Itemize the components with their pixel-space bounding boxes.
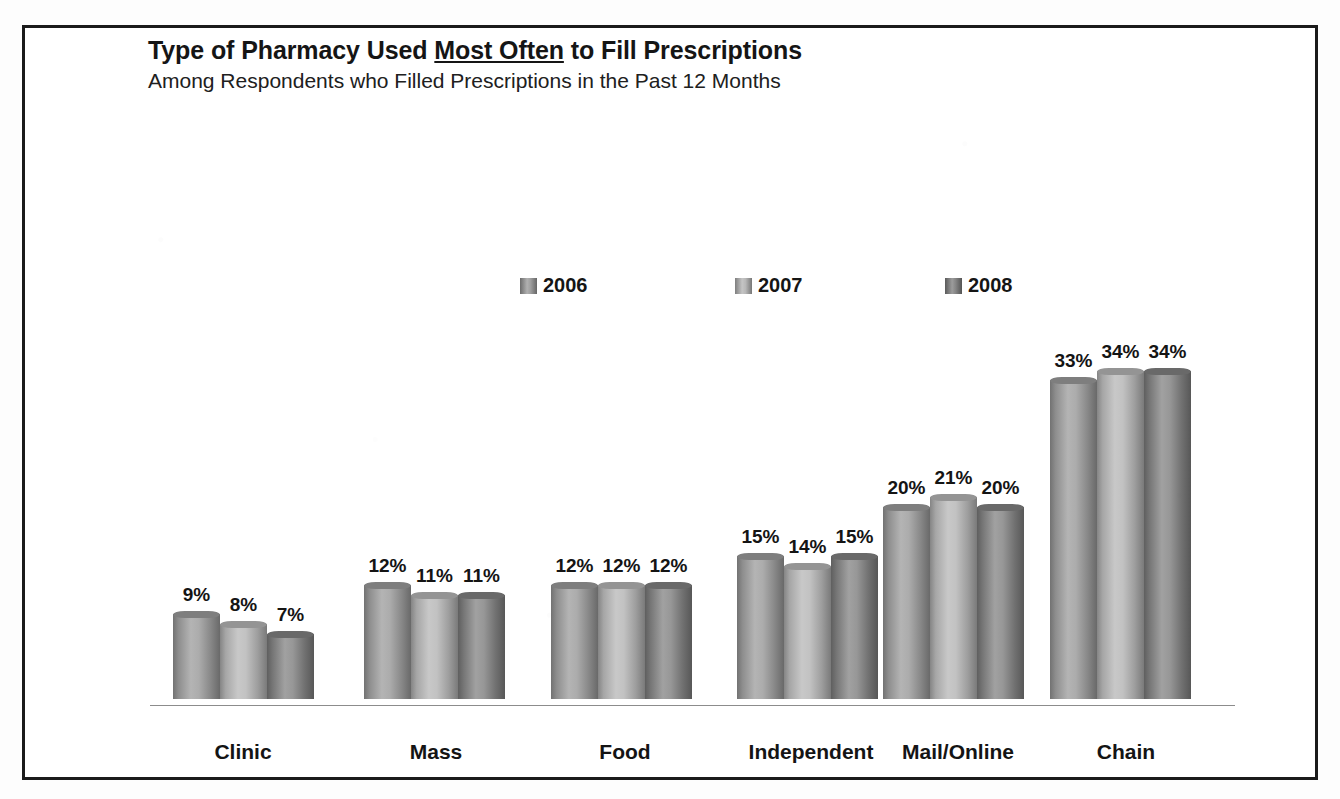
bar-mass-2007: 11%	[411, 592, 458, 699]
bar-value-label: 34%	[1148, 341, 1186, 363]
bar-body	[1097, 371, 1144, 700]
bar-clinic-2006: 9%	[173, 611, 220, 699]
bar-body	[1144, 371, 1191, 700]
bar-cap	[1097, 368, 1144, 375]
bar-food-2008: 12%	[645, 582, 692, 699]
bar-cap	[364, 582, 411, 589]
bar-value-label: 12%	[368, 555, 406, 577]
bar-body	[883, 507, 930, 699]
bar-body	[737, 556, 784, 699]
x-axis-label-clinic: Clinic	[214, 740, 271, 764]
bar-independent-2008: 15%	[831, 553, 878, 699]
bar-cap	[930, 494, 977, 501]
chart-frame: Type of Pharmacy Used Most Often to Fill…	[22, 25, 1318, 780]
bar-body	[173, 614, 220, 699]
bar-cap	[551, 582, 598, 589]
bar-cap	[1144, 368, 1191, 375]
bar-value-label: 7%	[277, 604, 304, 626]
bar-cap	[883, 504, 930, 511]
bar-cap	[220, 621, 267, 628]
bar-value-label: 11%	[463, 565, 500, 587]
bar-cap	[784, 563, 831, 570]
bar-clinic-2008: 7%	[267, 631, 314, 699]
x-axis-label-independent: Independent	[749, 740, 874, 764]
bar-value-label: 20%	[887, 477, 925, 499]
bar-value-label: 15%	[741, 526, 779, 548]
bar-value-label: 15%	[835, 526, 873, 548]
bar-independent-2007: 14%	[784, 563, 831, 700]
bar-cap	[831, 553, 878, 560]
bar-value-label: 9%	[183, 584, 210, 606]
x-axis-label-food: Food	[599, 740, 650, 764]
bar-value-label: 12%	[555, 555, 593, 577]
bar-independent-2006: 15%	[737, 553, 784, 699]
x-axis-label-mass: Mass	[410, 740, 463, 764]
bar-chain-2008: 34%	[1144, 368, 1191, 700]
bar-chain-2006: 33%	[1050, 377, 1097, 699]
bar-body	[364, 585, 411, 699]
bar-food-2007: 12%	[598, 582, 645, 699]
x-axis-label-mail-online: Mail/Online	[902, 740, 1014, 764]
bar-body	[411, 595, 458, 699]
bar-cap	[458, 592, 505, 599]
x-axis-label-chain: Chain	[1097, 740, 1155, 764]
bar-mass-2008: 11%	[458, 592, 505, 699]
bar-body	[645, 585, 692, 699]
bar-value-label: 33%	[1054, 350, 1092, 372]
bar-body	[220, 624, 267, 699]
plot-area: 9%8%7%Clinic12%11%11%Mass12%12%12%Food15…	[25, 28, 1315, 777]
bar-mass-2006: 12%	[364, 582, 411, 699]
bar-value-label: 8%	[230, 594, 257, 616]
bar-cap	[737, 553, 784, 560]
bar-body	[784, 566, 831, 700]
bar-clinic-2007: 8%	[220, 621, 267, 699]
bar-body	[458, 595, 505, 699]
bar-cap	[1050, 377, 1097, 384]
bar-body	[930, 497, 977, 699]
bar-mail-online-2006: 20%	[883, 504, 930, 699]
bar-mail-online-2008: 20%	[977, 504, 1024, 699]
bar-cap	[598, 582, 645, 589]
bar-body	[267, 634, 314, 699]
bar-value-label: 20%	[981, 477, 1019, 499]
bar-body	[598, 585, 645, 699]
bar-value-label: 21%	[934, 467, 972, 489]
x-axis-line	[150, 705, 1235, 706]
bar-mail-online-2007: 21%	[930, 494, 977, 699]
bar-body	[977, 507, 1024, 699]
bar-cap	[645, 582, 692, 589]
bar-cap	[977, 504, 1024, 511]
bar-cap	[411, 592, 458, 599]
bar-value-label: 34%	[1101, 341, 1139, 363]
bar-value-label: 11%	[416, 565, 453, 587]
bar-value-label: 14%	[788, 536, 826, 558]
bar-body	[551, 585, 598, 699]
bar-value-label: 12%	[602, 555, 640, 577]
bar-body	[1050, 380, 1097, 699]
bar-cap	[267, 631, 314, 638]
bar-chain-2007: 34%	[1097, 368, 1144, 700]
bar-value-label: 12%	[649, 555, 687, 577]
bar-cap	[173, 611, 220, 618]
bar-body	[831, 556, 878, 699]
bar-food-2006: 12%	[551, 582, 598, 699]
